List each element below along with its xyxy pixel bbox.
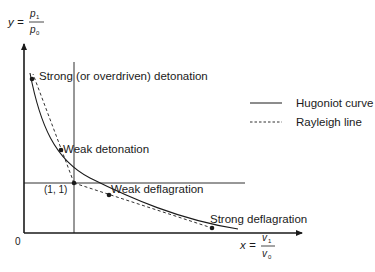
origin-label: 0	[15, 236, 21, 247]
legend: Hugoniot curve Rayleigh line	[250, 97, 373, 128]
legend-rayleigh-label: Rayleigh line	[296, 116, 362, 128]
x-axis-label: x = v 1 v 0	[239, 232, 275, 260]
svg-text:y =: y =	[7, 16, 24, 28]
point-reference	[72, 181, 77, 186]
svg-text:x =: x =	[239, 239, 256, 251]
svg-text:1: 1	[36, 14, 40, 20]
svg-text:1: 1	[268, 238, 272, 244]
y-axis-label: y = p 1 p 0	[7, 8, 44, 36]
point-strong-detonation	[30, 77, 35, 82]
rayleigh-line-detonation	[33, 74, 74, 183]
label-strong-detonation: Strong (or overdriven) detonation	[39, 70, 208, 82]
svg-text:p: p	[29, 24, 36, 35]
svg-text:0: 0	[268, 254, 272, 260]
point-strong-deflagration	[210, 226, 215, 231]
legend-hugoniot-label: Hugoniot curve	[296, 97, 373, 109]
label-reference-point: (1, 1)	[44, 184, 67, 195]
svg-text:0: 0	[36, 30, 40, 36]
rankine-hugoniot-diagram: Strong (or overdriven) detonation Weak d…	[0, 0, 375, 272]
label-strong-deflagration: Strong deflagration	[210, 213, 307, 225]
label-weak-detonation: Weak detonation	[63, 143, 149, 155]
label-weak-deflagration: Weak deflagration	[111, 183, 203, 195]
svg-text:p: p	[29, 8, 36, 19]
